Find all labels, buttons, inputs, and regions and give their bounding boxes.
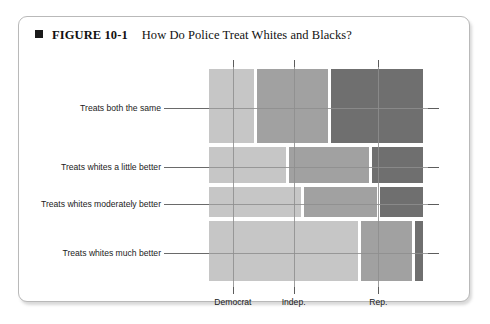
category-label: Treats whites a little better [61,162,161,172]
mosaic-cell-treats-both-the-same-democrat [209,69,254,143]
gridline-horizontal [205,167,430,168]
axis-label-indep: Indep. [282,297,306,307]
mosaic-cell-treats-whites-much-better-rep [415,221,423,281]
category-label: Treats whites moderately better [41,199,161,209]
tick-top [378,60,379,67]
gridline-horizontal [205,204,430,205]
label-leader-line [164,204,209,205]
tick-bottom [233,287,234,294]
mosaic-plot: Treats both the sameTreats whites a litt… [19,17,471,303]
tick-right [428,108,439,109]
mosaic-cell-treats-whites-much-better-indep [361,221,412,281]
tick-bottom [294,287,295,294]
tick-top [233,60,234,67]
mosaic-cell-treats-whites-moderately-better-rep [380,187,423,216]
figure-card: FIGURE 10-1 How Do Police Treat Whites a… [18,16,470,302]
axis-label-democrat: Democrat [214,297,251,307]
label-leader-line [164,167,209,168]
category-label: Treats whites much better [62,248,161,258]
label-leader-line [164,108,209,109]
gridline-vertical [294,65,295,293]
gridline-horizontal [205,108,430,109]
gridline-vertical [378,65,379,293]
mosaic-cell-treats-whites-a-little-better-rep [372,147,423,183]
gridline-horizontal [205,253,430,254]
mosaic-cell-treats-whites-much-better-democrat [209,221,358,281]
mosaic-cell-treats-both-the-same-indep [257,69,328,143]
tick-right [428,204,439,205]
tick-right [428,253,439,254]
label-leader-line [164,253,209,254]
mosaic-cell-treats-whites-moderately-better-democrat [209,187,301,216]
mosaic-cell-treats-whites-a-little-better-democrat [209,147,286,183]
tick-bottom [378,287,379,294]
axis-label-rep: Rep. [369,297,387,307]
category-label: Treats both the same [80,103,161,113]
tick-right [428,167,439,168]
mosaic-cell-treats-both-the-same-rep [331,69,423,143]
tick-top [294,60,295,67]
gridline-vertical [233,65,234,293]
mosaic-cell-treats-whites-moderately-better-indep [304,187,377,216]
mosaic-cell-treats-whites-a-little-better-indep [289,147,368,183]
